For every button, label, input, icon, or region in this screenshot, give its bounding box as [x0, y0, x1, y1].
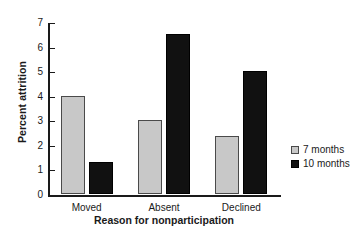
y-tick-label: 5 [37, 67, 43, 77]
y-tick-label: 7 [37, 18, 43, 28]
y-tick-mark [50, 195, 55, 196]
chart-legend: 7 months 10 months [291, 143, 350, 171]
y-tick-mark [50, 72, 55, 73]
x-tick-label-declined: Declined [222, 202, 261, 213]
y-tick-mark [50, 121, 55, 122]
x-axis-title: Reason for nonparticipation [48, 214, 280, 226]
bar-declined-10-months [243, 71, 267, 194]
y-tick-label: 2 [37, 141, 43, 151]
legend-label-7-months: 7 months [303, 145, 344, 155]
plot-area: 01234567 MovedAbsentDeclined [48, 23, 280, 196]
legend-item-10-months: 10 months [291, 157, 350, 171]
legend-swatch-7-months [291, 146, 299, 154]
y-tick-label: 1 [37, 165, 43, 175]
bar-declined-7-months [215, 136, 239, 194]
bar-moved-7-months [61, 96, 85, 194]
y-tick-mark [50, 97, 55, 98]
bar-absent-10-months [166, 34, 190, 194]
legend-item-7-months: 7 months [291, 143, 350, 157]
y-axis-title: Percent attrition [16, 32, 28, 172]
bar-absent-7-months [138, 120, 162, 194]
y-tick-mark [50, 23, 55, 24]
legend-label-10-months: 10 months [303, 159, 350, 169]
x-axis-line [48, 195, 281, 197]
y-tick-mark [50, 146, 55, 147]
legend-swatch-10-months [291, 160, 299, 168]
x-tick-label-moved: Moved [72, 202, 102, 213]
bar-chart-figure: Percent attrition 01234567 MovedAbsentDe… [0, 0, 356, 241]
y-tick-mark [50, 170, 55, 171]
y-tick-label: 3 [37, 116, 43, 126]
x-tick-label-absent: Absent [148, 202, 179, 213]
y-tick-label: 6 [37, 43, 43, 53]
y-tick-label: 4 [37, 92, 43, 102]
y-tick-label: 0 [37, 190, 43, 200]
y-tick-mark [50, 48, 55, 49]
bar-moved-10-months [89, 162, 113, 194]
